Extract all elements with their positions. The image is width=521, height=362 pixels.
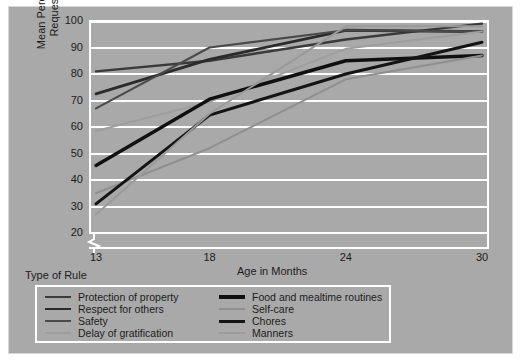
legend-column-right: Food and mealtime routinesSelf-careChore…: [211, 287, 389, 341]
legend-swatch-icon: [219, 320, 245, 323]
y-axis-tick-label: 20: [49, 227, 83, 238]
figure-panel: 1009080706050403020 13182430 Mean Percen…: [8, 6, 513, 354]
legend-item[interactable]: Food and mealtime routines: [219, 291, 389, 303]
legend-swatch-icon: [45, 308, 71, 311]
legend-swatch-icon: [45, 320, 71, 322]
legend-swatch-icon: [45, 296, 71, 298]
y-axis-label-line2: Requested by Mother: [48, 0, 61, 59]
legend-swatch-icon: [219, 332, 245, 334]
legend-title: Type of Rule: [25, 269, 87, 281]
legend-item[interactable]: Safety: [45, 315, 211, 327]
x-axis-tick-label: 24: [326, 251, 366, 263]
x-axis-tick-label: 18: [190, 251, 230, 263]
x-axis-line: [89, 247, 489, 249]
plot-area: [89, 21, 489, 233]
legend-item[interactable]: Respect for others: [45, 303, 211, 315]
y-axis-tick-label: 40: [49, 174, 83, 185]
legend-column-left: Protection of propertyRespect for others…: [37, 287, 211, 341]
y-axis-tick-label: 50: [49, 148, 83, 159]
legend-item-label: Delay of gratification: [78, 327, 173, 339]
legend-swatch-icon: [45, 332, 71, 334]
y-axis-tick-label: 80: [49, 68, 83, 79]
line-series-layer: [89, 21, 489, 233]
legend-swatch-icon: [219, 295, 245, 298]
series-line: [96, 32, 482, 131]
legend-swatch-icon: [219, 308, 245, 310]
y-axis-label: Mean Percentage of Rules Requested by Mo…: [35, 0, 61, 59]
y-axis-tick-label: 30: [49, 201, 83, 212]
legend-item-label: Protection of property: [78, 291, 178, 303]
y-axis-tick-label: 70: [49, 95, 83, 106]
y-axis-tick-label: 60: [49, 121, 83, 132]
y-axis-label-line1: Mean Percentage of Rules: [35, 0, 48, 59]
x-axis-tick-label: 30: [462, 251, 502, 263]
legend-item-label: Respect for others: [78, 303, 164, 315]
axis-break-icon: [87, 233, 101, 253]
x-axis-right-tip: [487, 233, 489, 249]
legend-item-label: Safety: [78, 315, 108, 327]
legend-item[interactable]: Protection of property: [45, 291, 211, 303]
legend: Protection of propertyRespect for others…: [35, 285, 391, 343]
legend-item-label: Manners: [252, 327, 293, 339]
legend-item-label: Chores: [252, 315, 286, 327]
legend-item[interactable]: Chores: [219, 315, 389, 327]
legend-item-label: Self-care: [252, 303, 294, 315]
legend-item[interactable]: Self-care: [219, 303, 389, 315]
legend-item-label: Food and mealtime routines: [252, 291, 382, 303]
legend-item[interactable]: Manners: [219, 327, 389, 339]
legend-item[interactable]: Delay of gratification: [45, 327, 211, 339]
x-axis-label: Age in Months: [237, 265, 307, 277]
